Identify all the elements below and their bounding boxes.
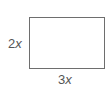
height-label: 2x	[8, 37, 22, 50]
rectangle	[29, 17, 105, 69]
height-variable: x	[15, 36, 22, 51]
width-label: 3x	[58, 73, 72, 86]
width-variable: x	[65, 72, 72, 87]
